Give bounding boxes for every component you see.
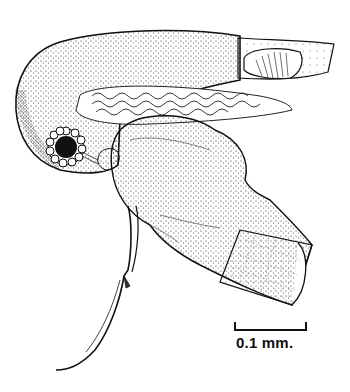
scale-bar bbox=[235, 322, 306, 331]
filament bbox=[56, 206, 138, 370]
scale-bar-label: 0.1 mm. bbox=[236, 334, 293, 351]
illustration bbox=[0, 0, 350, 392]
right-appendage bbox=[238, 38, 334, 79]
segmented-trunk bbox=[98, 116, 312, 305]
